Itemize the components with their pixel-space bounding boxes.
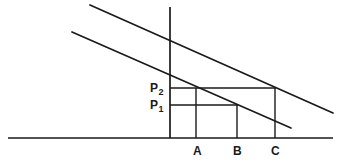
axis-label-c: C	[271, 145, 280, 157]
point-label-p2-base: P	[150, 81, 158, 95]
axis-label-a: A	[193, 145, 202, 157]
point-label-p2: P2	[150, 82, 163, 94]
point-label-p2-subscript: 2	[159, 87, 164, 97]
point-label-p1-base: P	[150, 98, 158, 112]
point-label-p1: P1	[150, 99, 163, 111]
axis-label-b: B	[233, 145, 242, 157]
diagram-svg	[0, 0, 342, 167]
figure-canvas: P2 P1 A B C	[0, 0, 342, 167]
point-label-p1-subscript: 1	[159, 104, 164, 114]
upper-demand-line	[90, 5, 333, 113]
